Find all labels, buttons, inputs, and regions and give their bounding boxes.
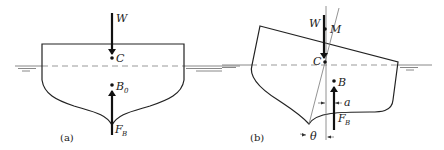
label-center-of-gravity-a: C bbox=[116, 52, 125, 65]
label-buoyant-force-sub-b: B bbox=[344, 119, 350, 127]
label-metacenter-b: M bbox=[329, 23, 342, 36]
label-weight-b: W bbox=[309, 17, 322, 30]
panel-a: W C B 0 F B (a) bbox=[15, 12, 240, 143]
center-of-buoyancy-point-a bbox=[110, 83, 114, 87]
panel-b: W M C B F B a θ (b) bbox=[222, 6, 432, 143]
label-center-of-buoyancy-a: B bbox=[115, 80, 124, 93]
label-offset-b: a bbox=[344, 96, 351, 109]
center-of-buoyancy-point-b bbox=[332, 79, 336, 83]
center-of-gravity-point-b bbox=[323, 60, 327, 64]
waterline-a bbox=[15, 66, 240, 71]
offset-dimension-b bbox=[318, 102, 342, 105]
caption-a: (a) bbox=[60, 132, 74, 143]
center-of-gravity-point-a bbox=[110, 56, 114, 60]
waterline-b bbox=[222, 65, 432, 70]
heel-angle-dimension-b bbox=[300, 133, 334, 139]
buoyancy-stability-diagram: W C B 0 F B (a) W bbox=[0, 0, 444, 150]
caption-b: (b) bbox=[250, 132, 264, 143]
label-heel-angle-b: θ bbox=[310, 130, 317, 143]
label-weight-a: W bbox=[116, 12, 129, 25]
label-center-of-gravity-b: C bbox=[313, 55, 322, 68]
metacenter-point-b bbox=[323, 27, 327, 31]
label-buoyant-force-sub-a: B bbox=[121, 130, 127, 138]
label-center-of-buoyancy-sub-a: 0 bbox=[124, 87, 129, 95]
label-center-of-buoyancy-b: B bbox=[337, 76, 346, 89]
